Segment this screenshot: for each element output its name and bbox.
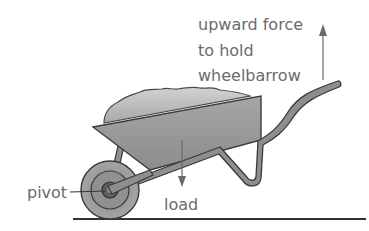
upward-force-arrow-icon	[319, 24, 327, 80]
pivot-label: pivot	[27, 183, 67, 202]
load-label: load	[164, 195, 198, 214]
wheelbarrow-diagram: upward force to hold wheelbarrow pivot l…	[0, 0, 369, 231]
upward-force-label-line3: wheelbarrow	[198, 66, 301, 85]
upward-force-label-line2: to hold	[198, 41, 254, 60]
upward-force-label-line1: upward force	[198, 15, 303, 34]
